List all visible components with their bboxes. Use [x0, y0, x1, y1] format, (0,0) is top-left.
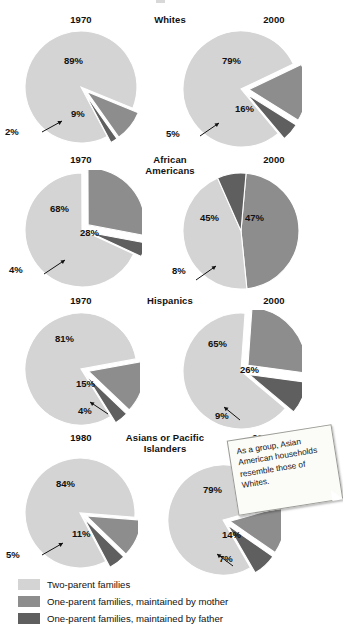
legend-swatch-mother — [18, 596, 40, 607]
panel-year-hisp-2000: 2000 — [244, 295, 304, 306]
legend-item-two-parent: Two-parent families — [18, 576, 328, 592]
slice-label-black-1970-mother: 28% — [80, 227, 99, 238]
panel-year-black-1970: 1970 — [51, 154, 111, 165]
sticky-note: As a group, Asian American households re… — [227, 424, 343, 516]
panel-year-asian-1980: 1980 — [51, 432, 111, 443]
slice-label-whites-2000-mother: 16% — [235, 103, 254, 114]
group-title-black-line1: African — [110, 154, 230, 165]
legend: Two-parent families One-parent families,… — [18, 576, 328, 627]
panel-year-whites-1970: 1970 — [51, 14, 111, 25]
sticky-note-text: As a group, Asian American households re… — [236, 432, 334, 491]
legend-label-father: One-parent families, maintained by fathe… — [47, 613, 223, 624]
slice-label-black-2000-father: 8% — [172, 265, 186, 276]
slice-label-black-2000-mother: 47% — [245, 212, 264, 223]
slice-label-hisp-2000-father: 9% — [215, 410, 229, 421]
slice-label-black-1970-father: 4% — [9, 264, 23, 275]
legend-label-mother: One-parent families, maintained by mothe… — [47, 596, 228, 607]
slice-label-asian-1980-two: 84% — [56, 478, 75, 489]
legend-swatch-father — [18, 613, 40, 624]
slice-label-hisp-2000-mother: 26% — [240, 364, 259, 375]
legend-item-father: One-parent families, maintained by fathe… — [18, 610, 328, 626]
panel-year-black-2000: 2000 — [244, 154, 304, 165]
pie-african-americans-2000 — [180, 170, 302, 292]
legend-item-mother: One-parent families, maintained by mothe… — [18, 593, 328, 609]
group-title-whites: Whites — [110, 14, 230, 25]
crop-mark — [156, 0, 165, 3]
group-title-asian-line1: Asians or Pacific — [105, 432, 225, 443]
slice-label-asian-1980-mother: 11% — [72, 528, 91, 539]
slice-label-asian-2000-father: 7% — [219, 553, 233, 564]
slice-label-asian-1980-father: 5% — [6, 549, 20, 560]
slice-label-asian-2000-two: 79% — [203, 484, 222, 495]
slice-label-hisp-2000-two: 65% — [208, 338, 227, 349]
pie-whites-1970 — [22, 28, 140, 146]
pie-whites-2000 — [180, 28, 302, 150]
group-title-hispanics: Hispanics — [110, 295, 230, 306]
group-title-asian-line2: Islanders — [105, 443, 225, 454]
sticky-note-fold-icon — [331, 488, 343, 501]
panel-year-whites-2000: 2000 — [244, 14, 304, 25]
slice-label-asian-2000-mother: 14% — [222, 529, 241, 540]
slice-label-hisp-1970-mother: 15% — [76, 378, 95, 389]
legend-swatch-two-parent — [18, 579, 40, 590]
slice-label-whites-1970-two: 89% — [64, 55, 83, 66]
slice-label-hisp-1970-two: 81% — [55, 333, 74, 344]
slice-label-whites-1970-father: 2% — [5, 126, 19, 137]
slice-label-black-1970-two: 68% — [50, 203, 69, 214]
slice-label-whites-2000-two: 79% — [222, 55, 241, 66]
slice-label-whites-1970-mother: 9% — [71, 108, 85, 119]
panel-year-hisp-1970: 1970 — [51, 295, 111, 306]
slice-label-hisp-1970-father: 4% — [78, 405, 92, 416]
slice-label-black-2000-two: 45% — [200, 212, 219, 223]
pie-asians-1980 — [22, 455, 138, 571]
slice-label-whites-2000-father: 5% — [166, 128, 180, 139]
legend-label-two-parent: Two-parent families — [47, 579, 130, 590]
